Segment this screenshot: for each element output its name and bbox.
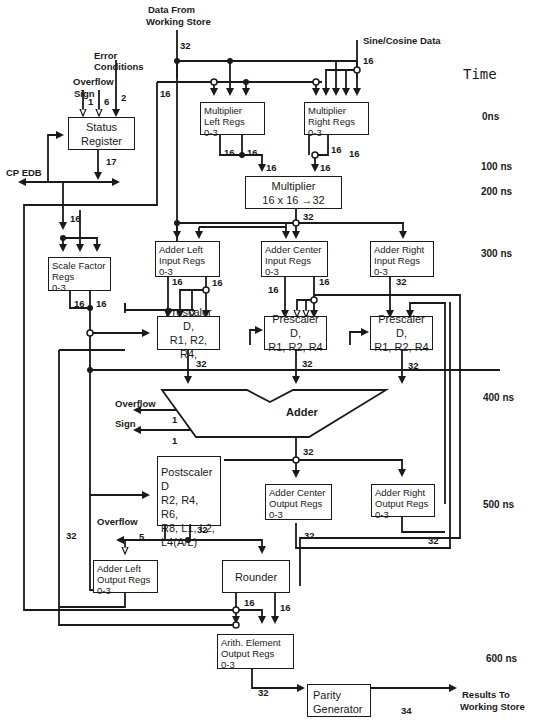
bus-width: 16: [96, 298, 107, 309]
bus-width: 1: [88, 96, 93, 107]
block-label: Multiplier: [271, 179, 315, 193]
bus-width: 16: [70, 213, 81, 224]
block-label: Input Regs: [265, 255, 324, 266]
scale-factor-regs-block: Scale Factor Regs 0-3: [48, 257, 111, 291]
block-label: L4(A/L): [161, 535, 218, 549]
block-label: R1, R2, R4: [374, 340, 428, 354]
block-label: Input Regs: [159, 255, 216, 266]
adder-center-input-regs-block: Adder Center Input Regs 0-3: [261, 241, 328, 277]
block-label: R1, R2, R4: [268, 340, 322, 354]
time-label-100ns: 100 ns: [481, 161, 512, 172]
block-label: Prescaler D,: [268, 312, 323, 340]
bus-width: 16: [319, 276, 330, 287]
time-label-300ns: 300 ns: [481, 248, 512, 259]
bus-width: 16: [320, 162, 331, 173]
adder-left-output-regs-block: Adder Left Output Regs 0-3: [93, 560, 158, 593]
bus-width: 16: [160, 88, 171, 99]
block-label: Output Regs: [375, 498, 431, 509]
block-label: Generator: [313, 702, 365, 716]
bus-width: 16: [247, 147, 258, 158]
bus-width: 32: [304, 530, 315, 541]
sine-cosine-label: Sine/Cosine Data: [363, 35, 441, 46]
block-label: Output Regs: [97, 574, 154, 585]
block-label: Adder Center: [265, 244, 324, 255]
diagram-wiring: [0, 0, 534, 725]
multiplier-right-regs-block: Multiplier Right Regs 0-3: [304, 102, 369, 135]
bus-width: 32: [428, 535, 439, 546]
block-label: Prescaler D,: [374, 312, 429, 340]
results-to-ws-label-2: Working Store: [460, 701, 525, 712]
bus-width: 16: [280, 602, 291, 613]
block-label: Rounder: [235, 570, 277, 584]
bus-width: 6: [104, 96, 109, 107]
bus-width: 1: [172, 414, 177, 425]
bus-width: 1: [172, 435, 177, 446]
postscaler-block: Postscaler D R2, R4, R6, R8, L1, L2, L4(…: [157, 456, 221, 526]
block-label: 0-3: [308, 127, 365, 138]
block-label: Adder Right: [375, 487, 431, 498]
block-label: Multiplier: [308, 105, 365, 116]
block-label: 0-3: [374, 266, 430, 277]
block-label: R8, L1, L2,: [161, 521, 218, 535]
adder-left-input-regs-block: Adder Left Input Regs 0-3: [155, 241, 220, 277]
bus-width: 16: [349, 148, 360, 159]
block-label: 0-3: [269, 509, 328, 520]
block-label: Multiplier: [204, 105, 261, 116]
bus-width: 32: [396, 276, 407, 287]
bus-width: 17: [106, 156, 117, 167]
parity-generator-block: Parity Generator: [307, 684, 371, 717]
bus-width: 32: [258, 687, 269, 698]
block-label: 16 x 16 →32: [262, 193, 324, 207]
block-label: Adder Left: [97, 563, 154, 574]
error-conditions-label: Error: [94, 50, 117, 61]
time-label-600ns: 600 ns: [486, 653, 517, 664]
block-label: Left Regs: [204, 116, 261, 127]
block-label: R2, R4, R6,: [161, 493, 218, 521]
prescaler-left-block: Prescaler D, R1, R2, R4,: [157, 316, 220, 350]
error-conditions-label-2: Conditions: [94, 61, 144, 72]
block-label: 0-3: [375, 509, 431, 520]
block-label: 0-3: [97, 585, 154, 596]
arith-element-output-regs-block: Arith. Element Output Regs 0-3: [217, 634, 294, 669]
results-to-ws-label: Results To: [462, 689, 510, 700]
prescaler-center-block: Prescaler D, R1, R2, R4: [264, 316, 327, 350]
overflow-in-label: Overflow: [73, 76, 114, 87]
adder-shape: [162, 390, 386, 437]
block-label: 0-3: [204, 127, 261, 138]
block-label: 0-3: [221, 659, 290, 670]
status-register-block: Status Register: [68, 117, 135, 150]
block-label: Adder Left: [159, 244, 216, 255]
bus-width: 16: [244, 597, 255, 608]
time-axis-title: Time: [463, 66, 497, 82]
adder-overflow-label: Overflow: [115, 398, 156, 409]
block-label: 0-3: [159, 266, 216, 277]
data-from-ws-label: Data From: [148, 4, 195, 15]
block-label: Scale Factor: [52, 260, 107, 271]
bus-width: 16: [331, 144, 342, 155]
block-label: Prescaler D,: [161, 305, 216, 333]
block-label: R1, R2, R4,: [161, 333, 216, 361]
block-label: Adder Center: [269, 487, 328, 498]
bus-width: 32: [180, 40, 191, 51]
cp-edb-label: CP EDB: [6, 167, 42, 178]
block-label: Arith. Element: [221, 637, 290, 648]
block-label: Status: [86, 120, 117, 134]
postscaler-overflow-label: Overflow: [97, 516, 138, 527]
block-label: Postscaler D: [161, 465, 218, 493]
bus-width: 32: [302, 358, 313, 369]
rounder-block: Rounder: [222, 560, 290, 593]
block-label: Output Regs: [269, 498, 328, 509]
bus-width: 16: [172, 276, 183, 287]
time-label-200ns: 200 ns: [481, 186, 512, 197]
block-label: Input Regs: [374, 255, 430, 266]
block-label: Adder Right: [374, 244, 430, 255]
bus-width: 32: [408, 360, 419, 371]
time-label-0ns: 0ns: [482, 111, 499, 122]
block-label: Parity: [313, 688, 365, 702]
bus-width: 5: [139, 531, 144, 542]
bus-width: 16: [74, 298, 85, 309]
bus-width: 16: [363, 55, 374, 66]
block-label: Regs: [52, 271, 107, 282]
time-label-400ns: 400 ns: [483, 392, 514, 403]
block-label: Register: [81, 134, 122, 148]
